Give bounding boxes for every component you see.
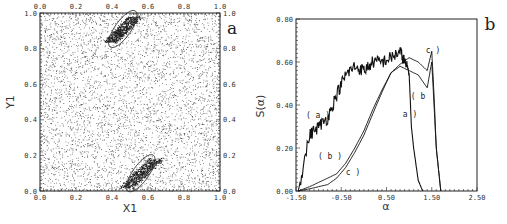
panel-b-ticks <box>296 19 477 191</box>
x-tick-label: 0.4 <box>106 194 119 202</box>
x-tick-label: 2.50 <box>469 194 486 202</box>
x-tick-label: 1.50 <box>423 194 440 202</box>
curve-label: a ) <box>403 110 417 119</box>
curve-label: c ) <box>426 46 440 55</box>
scatter-points <box>40 13 221 192</box>
x-axis-label: X1 <box>123 202 138 215</box>
x-tick-label: -0.50 <box>331 194 352 202</box>
y-right-tick-label: 0.6 <box>223 81 236 89</box>
y-axis-label: S(α) <box>254 95 267 118</box>
series-c <box>298 51 441 191</box>
y-tick-label: 0.2 <box>24 152 37 160</box>
y-tick-label: 0.4 <box>24 116 37 124</box>
y-tick-label: 1.0 <box>24 10 37 18</box>
panel-b-lines <box>296 19 477 191</box>
y-right-tick-label: 0.8 <box>223 45 236 53</box>
y-right-tick-label: 0.2 <box>223 152 236 160</box>
y-tick-label: 0.00 <box>276 188 293 196</box>
x-top-tick-label: 0.4 <box>106 3 119 11</box>
panel-a-ticks <box>40 13 220 191</box>
curve-label: ( b <box>411 92 426 101</box>
x-axis-label: α <box>382 200 389 213</box>
y-right-tick-label: 0.4 <box>223 116 236 124</box>
y-right-tick-label: 1.0 <box>223 10 236 18</box>
y-tick-label: 0.8 <box>24 45 37 53</box>
x-top-tick-label: 0.6 <box>142 3 155 11</box>
x-top-tick-label: 0.2 <box>70 3 83 11</box>
panel-a-frame <box>40 13 220 191</box>
panel-a-scatter <box>40 6 221 195</box>
panel-label-b: b <box>485 14 496 34</box>
y-axis-label: Y1 <box>4 95 17 110</box>
y-tick-label: 0.60 <box>276 59 293 67</box>
y-tick-label: 0.0 <box>24 188 37 196</box>
x-tick-label: 0.2 <box>70 194 83 202</box>
x-tick-label: 0.8 <box>178 194 191 202</box>
figure: 0.00.00.20.20.40.40.60.60.80.81.01.00.00… <box>0 0 507 224</box>
y-tick-label: 0.6 <box>24 81 37 89</box>
curve-label: ( b ) <box>318 152 342 161</box>
y-right-tick-label: 0.0 <box>223 188 236 196</box>
panel-b-frame <box>296 19 477 191</box>
x-tick-label: 0.6 <box>142 194 155 202</box>
series-b <box>298 62 441 191</box>
curve-label: c ) <box>346 168 360 177</box>
panel-label-a: a <box>227 18 237 38</box>
y-tick-label: 0.40 <box>276 102 293 110</box>
curve-label: ( a ) <box>306 111 330 120</box>
x-top-tick-label: 0.8 <box>178 3 191 11</box>
y-tick-label: 0.20 <box>276 145 293 153</box>
y-tick-label: 0.80 <box>276 16 293 24</box>
